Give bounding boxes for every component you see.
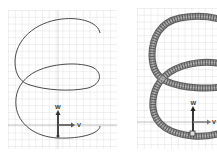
origin-marker — [190, 131, 195, 136]
helix-line-diagram: W V — [0, 0, 120, 153]
w-axis-label: W — [191, 100, 197, 106]
helix-tube-diagram: W V — [108, 0, 217, 153]
grid — [137, 8, 217, 149]
left-panel: W V — [0, 0, 120, 153]
v-axis-label: V — [77, 122, 81, 128]
v-axis-label: V — [212, 119, 216, 125]
w-axis-label: W — [55, 104, 61, 110]
right-panel: W V — [108, 0, 217, 153]
